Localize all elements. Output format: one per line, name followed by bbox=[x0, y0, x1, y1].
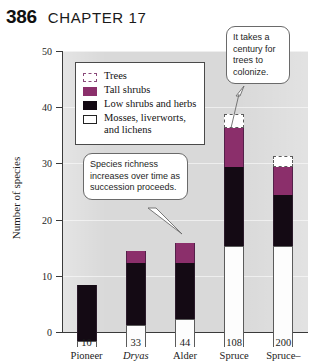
page-header: 386 CHAPTER 17 bbox=[6, 6, 146, 28]
callout-trees-tail bbox=[222, 84, 252, 130]
legend-item-low-shrubs: Low shrubs and herbs bbox=[83, 98, 196, 111]
legend-item-mosses: Mosses, liverworts,and lichens bbox=[83, 112, 196, 137]
x-label-stage: Spruce– bbox=[248, 349, 318, 362]
y-tick-20 bbox=[56, 220, 62, 221]
y-tick-10 bbox=[56, 276, 62, 277]
bar-spruce[interactable] bbox=[224, 114, 244, 347]
page-number: 386 bbox=[6, 6, 37, 28]
y-tick-label-20: 20 bbox=[42, 214, 52, 225]
legend-label-trees: Trees bbox=[104, 70, 127, 83]
x-label-spruce: 200Spruce– bbox=[248, 336, 318, 362]
low-shrubs-swatch-icon bbox=[83, 101, 97, 110]
segment-trees bbox=[273, 156, 293, 167]
legend-item-tall-shrubs: Tall shrubs bbox=[83, 84, 196, 97]
segment-low bbox=[224, 167, 244, 246]
y-tick-40 bbox=[56, 107, 62, 108]
y-axis-label: Number of species bbox=[10, 138, 22, 258]
segment-low bbox=[273, 195, 293, 246]
callout-richness-tail bbox=[120, 206, 190, 250]
y-axis-line bbox=[62, 51, 63, 332]
y-tick-30 bbox=[56, 163, 62, 164]
callout-trees-colonize: It takes a century for trees to colonize… bbox=[226, 26, 290, 84]
chart-legend: Trees Tall shrubs Low shrubs and herbs M… bbox=[75, 62, 205, 145]
y-tick-0 bbox=[56, 332, 62, 333]
mosses-swatch-icon bbox=[83, 115, 97, 124]
bar-dryas[interactable] bbox=[126, 251, 146, 347]
y-tick-label-50: 50 bbox=[42, 46, 52, 57]
segment-moss bbox=[273, 246, 293, 347]
y-tick-50 bbox=[56, 51, 62, 52]
segment-moss bbox=[224, 246, 244, 347]
legend-label-mosses: Mosses, liverworts,and lichens bbox=[104, 112, 186, 137]
legend-label-tall-shrubs: Tall shrubs bbox=[104, 84, 150, 97]
trees-swatch-icon bbox=[83, 73, 97, 82]
segment-low bbox=[126, 263, 146, 325]
chapter-label: CHAPTER 17 bbox=[48, 9, 147, 26]
legend-item-trees: Trees bbox=[83, 70, 196, 83]
segment-tall bbox=[224, 128, 244, 167]
figure-chart: 01020304050 Number of species 10Pioneer3… bbox=[0, 36, 310, 347]
bar-alder[interactable] bbox=[175, 243, 195, 347]
segment-low bbox=[175, 263, 195, 319]
segment-low bbox=[77, 285, 97, 341]
y-tick-label-10: 10 bbox=[42, 270, 52, 281]
tall-shrubs-swatch-icon bbox=[83, 87, 97, 96]
segment-tall bbox=[126, 251, 146, 262]
y-tick-label-40: 40 bbox=[42, 102, 52, 113]
x-label-year: 200 bbox=[248, 336, 318, 349]
legend-label-low-shrubs: Low shrubs and herbs bbox=[104, 98, 196, 111]
segment-tall bbox=[273, 167, 293, 195]
bar-spruce[interactable] bbox=[273, 156, 293, 347]
y-tick-label-30: 30 bbox=[42, 158, 52, 169]
callout-species-richness: Species richness increases over time as … bbox=[83, 153, 188, 200]
